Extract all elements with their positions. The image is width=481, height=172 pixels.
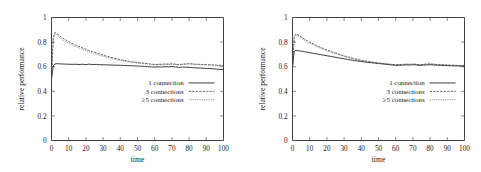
x-tick-label: 0	[291, 145, 295, 153]
y-tick-label: 0.4	[38, 88, 47, 96]
y-tick-label: 0.4	[279, 88, 288, 96]
chart-panel-right: 0102030405060708090100 00.20.40.60.81 ti…	[240, 0, 480, 172]
x-tick-label: 90	[203, 145, 211, 153]
data-series-left	[52, 33, 224, 79]
x-axis-title-right: time	[372, 155, 386, 164]
x-tick-label: 30	[100, 145, 108, 153]
y-tick-label: 0.6	[38, 63, 47, 71]
series-line	[52, 33, 224, 79]
y-axis-title-right: relative performance	[258, 47, 267, 111]
y-tick-label: 0.8	[279, 39, 288, 47]
legend-label: 1 connection	[389, 79, 425, 86]
y-tick-label: 0	[284, 137, 288, 145]
x-tick-label: 90	[444, 145, 452, 153]
x-tick-label: 100	[459, 145, 470, 153]
x-tick-label: 40	[117, 145, 125, 153]
x-tick-label: 10	[306, 145, 314, 153]
series-line	[293, 35, 465, 67]
legend-label: 3 connections	[387, 88, 425, 95]
series-line	[293, 34, 465, 67]
x-tick-labels-left: 0102030405060708090100	[50, 145, 230, 153]
y-axis-ticks-right	[293, 18, 465, 141]
legend-label: ≥5 connections	[142, 96, 184, 103]
series-line	[52, 64, 224, 79]
x-tick-label: 60	[392, 145, 400, 153]
plot-frame-left	[52, 18, 224, 141]
y-axis-ticks-left	[52, 18, 224, 141]
x-axis-ticks-left	[52, 18, 224, 141]
x-tick-label: 80	[427, 145, 435, 153]
chart-svg-right: 0102030405060708090100 00.20.40.60.81 ti…	[240, 0, 481, 172]
legend-right: 1 connection3 connections≥5 connections	[383, 79, 456, 103]
y-tick-label: 0.2	[279, 113, 288, 121]
y-tick-labels-right: 00.20.40.60.81	[279, 14, 288, 145]
y-axis-title-left: relative performance	[17, 47, 26, 111]
legend-label: 1 connection	[148, 79, 184, 86]
chart-svg-left: 0102030405060708090100 00.20.40.60.81 ti…	[0, 0, 240, 172]
y-tick-label: 1	[43, 14, 47, 22]
x-tick-label: 80	[186, 145, 194, 153]
x-tick-label: 0	[50, 145, 54, 153]
legend-label: ≥5 connections	[383, 96, 425, 103]
x-axis-ticks-right	[293, 18, 465, 141]
x-tick-label: 20	[323, 145, 331, 153]
x-tick-label: 70	[409, 145, 417, 153]
x-tick-label: 30	[341, 145, 349, 153]
x-axis-title-left: time	[131, 155, 145, 164]
series-line	[52, 34, 224, 79]
y-tick-label: 1	[284, 14, 288, 22]
x-tick-label: 100	[218, 145, 229, 153]
x-tick-label: 40	[358, 145, 366, 153]
x-tick-label: 60	[151, 145, 159, 153]
figure-two-panel-line-charts: 0102030405060708090100 00.20.40.60.81 ti…	[0, 0, 481, 172]
plot-frame-right	[293, 18, 465, 141]
y-tick-label: 0	[43, 137, 47, 145]
chart-panel-left: 0102030405060708090100 00.20.40.60.81 ti…	[0, 0, 240, 172]
data-series-right	[293, 34, 465, 67]
x-tick-label: 50	[375, 145, 383, 153]
x-tick-label: 20	[82, 145, 90, 153]
x-tick-label: 70	[168, 145, 176, 153]
x-tick-labels-right: 0102030405060708090100	[291, 145, 471, 153]
y-tick-label: 0.6	[279, 63, 288, 71]
y-tick-label: 0.8	[38, 39, 47, 47]
x-tick-label: 10	[65, 145, 73, 153]
legend-left: 1 connection3 connections≥5 connections	[142, 79, 215, 103]
legend-label: 3 connections	[146, 88, 184, 95]
x-tick-label: 50	[134, 145, 142, 153]
y-tick-labels-left: 00.20.40.60.81	[38, 14, 47, 145]
y-tick-label: 0.2	[38, 113, 47, 121]
